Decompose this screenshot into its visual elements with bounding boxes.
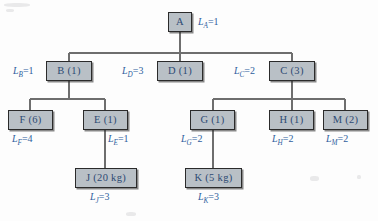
lead-time-c: LC=2 [234, 66, 255, 79]
node-f[interactable]: F (6) [8, 110, 53, 130]
lead-time-h: LH=2 [272, 134, 293, 147]
product-structure-diagram: A LA=1 B (1) LB=1 D (1) LD=3 C (3) LC=2 … [0, 0, 378, 221]
lead-time-k-value: 3 [214, 191, 219, 202]
node-j-label: J (20 kg) [86, 173, 126, 184]
lead-time-h-value: 2 [288, 133, 293, 144]
node-b-label: B (1) [57, 66, 80, 77]
lead-time-k: LK=3 [198, 192, 219, 205]
node-m[interactable]: M (2) [323, 110, 368, 130]
node-d-label: D (1) [168, 66, 192, 77]
lead-time-j: LJ=3 [90, 192, 109, 205]
node-e-label: E (1) [94, 115, 117, 126]
node-k[interactable]: K (5 kg) [185, 168, 242, 188]
node-a-label: A [176, 17, 184, 28]
node-g[interactable]: G (1) [190, 110, 235, 130]
node-m-label: M (2) [333, 115, 359, 126]
lead-time-a: LA=1 [198, 17, 219, 30]
lead-time-d: LD=3 [122, 66, 143, 79]
lead-time-m-value: 2 [343, 133, 348, 144]
lead-time-g-value: 2 [197, 133, 202, 144]
lead-time-g: LG=2 [181, 134, 202, 147]
lead-time-b-value: 1 [29, 65, 34, 76]
node-c-label: C (3) [280, 66, 303, 77]
lead-time-d-value: 3 [138, 65, 143, 76]
lead-time-e: LE=1 [108, 134, 129, 147]
node-g-label: G (1) [201, 115, 225, 126]
lead-time-e-value: 1 [124, 133, 129, 144]
lead-time-a-value: 1 [214, 16, 219, 27]
node-e[interactable]: E (1) [83, 110, 128, 130]
node-f-label: F (6) [19, 115, 41, 126]
node-h-label: H (1) [280, 115, 304, 126]
lead-time-f-value: 4 [28, 133, 33, 144]
lead-time-b: LB=1 [13, 66, 34, 79]
node-a[interactable]: A [168, 12, 192, 32]
lead-time-j-value: 3 [104, 191, 109, 202]
node-d[interactable]: D (1) [157, 61, 203, 81]
lead-time-c-value: 2 [250, 65, 255, 76]
node-c[interactable]: C (3) [269, 61, 315, 81]
node-j[interactable]: J (20 kg) [75, 168, 137, 188]
node-b[interactable]: B (1) [46, 61, 92, 81]
lead-time-f: LF=4 [12, 134, 33, 147]
lead-time-m: LM=2 [326, 134, 348, 147]
node-k-label: K (5 kg) [195, 173, 233, 184]
node-h[interactable]: H (1) [269, 110, 314, 130]
